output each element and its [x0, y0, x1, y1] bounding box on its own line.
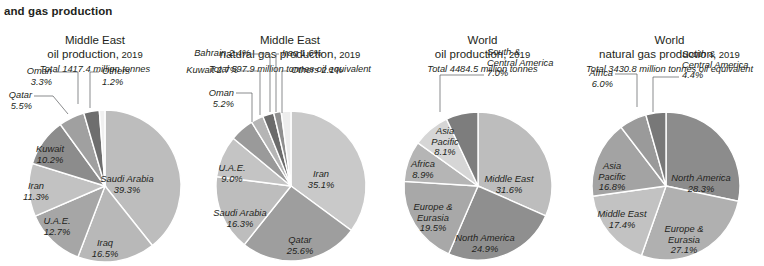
pie-slice-name: Africa [588, 68, 613, 78]
pie-slice-name: South & [682, 49, 715, 59]
pie-slice-label: Africa8.9% [410, 158, 435, 180]
pie-slice-name: Iran [313, 168, 329, 179]
pie-slice-label: South &Central America4.4% [682, 49, 748, 80]
pie-slice-label: Oman5.2% [209, 88, 234, 109]
pie-slice-label: Oman3.3% [27, 66, 52, 87]
label-leader-line [282, 71, 288, 113]
pie-slice-value: 27.1% [670, 244, 698, 255]
pie-chart-1: Saudi Arabia39.3%Iraq16.5%U.A.E.12.7%Ira… [0, 34, 190, 266]
pie-slice-value: 7.0% [487, 68, 508, 78]
pie-slice-name: Central America [682, 60, 748, 70]
pie-slice-name: Europe & [413, 201, 452, 212]
pie-slice-value: 4.4% [682, 70, 703, 80]
pie-chart-2: Iran35.1%Qatar25.6%Saudi Arabia16.3%U.A.… [190, 34, 390, 266]
pie-slice-name: Bahrain 2.4% [194, 48, 250, 58]
pie-slice-name: Qatar [288, 234, 312, 245]
pie-slice-value: 31.6% [496, 184, 523, 195]
pie-slice-name: U.A.E. [218, 162, 245, 173]
label-leader-line [653, 77, 679, 112]
pie-slice-value: 28.3% [687, 183, 715, 194]
pie-slice-name: Pacific [598, 171, 626, 182]
pie-slice-label: Others1.2% [102, 66, 130, 87]
pie-slice-label: Kuwait10.2% [36, 143, 65, 165]
label-leader-line [54, 72, 78, 104]
pie-chart-panel-3: Worldoil production, 2019Total 4484.5 mi… [390, 34, 575, 266]
pie-chart-4: North America28.3%Europe &Eurasia27.1%Mi… [575, 34, 764, 266]
pie-slice-name: Eurasia [417, 212, 449, 223]
pie-slice-value: 24.9% [471, 243, 499, 254]
pie-slice-value: 17.4% [609, 219, 636, 230]
pie-slice-name: Europe & [664, 223, 703, 234]
label-leader-line [236, 93, 252, 122]
pie-slice-name: Middle East [485, 173, 534, 184]
pie-slice-name: Asia [602, 160, 621, 171]
pie-slice-name: Iraq 1.6% [282, 48, 322, 58]
pie-slice-label: Kuwait 2.7% [186, 65, 238, 75]
pie-slice-name: Others 2.1% [291, 65, 343, 75]
pie-slice-label: Africa6.0% [588, 68, 613, 89]
label-leader-line [615, 74, 637, 107]
pie-chart-panel-4: Worldnatural gas production, 2019Total 3… [575, 34, 764, 266]
pie-slice-value: 6.0% [592, 79, 613, 89]
pie-slice-label: Qatar5.5% [9, 90, 33, 111]
pie-slice-value: 8.9% [412, 169, 433, 180]
pie-slice-value: 5.2% [213, 99, 234, 109]
pie-slice-value: 10.2% [37, 154, 64, 165]
page-title: and gas production [4, 5, 113, 17]
pie-slice-name: Saudi Arabia [100, 173, 153, 184]
pie-slice-name: Qatar [9, 90, 33, 100]
pie-slice-name: U.A.E. [43, 215, 70, 226]
pie-slice-value: 16.3% [227, 218, 254, 229]
pie-slice-value: 11.3% [23, 191, 49, 202]
pie-slice-value: 12.7% [44, 226, 71, 237]
pie-slice-name: Asia [435, 125, 454, 136]
pie-slice-name: Saudi Arabia [213, 207, 266, 218]
pie-slice-name: Kuwait 2.7% [186, 65, 238, 75]
pie-slice-label: Others 2.1% [291, 65, 343, 75]
pie-chart-panel-1: Middle Eastoil production, 2019Total 141… [0, 34, 190, 266]
pie-chart-panel-2: Middle Eastnatural gas production, 2019T… [190, 34, 390, 266]
pie-slice-label: U.A.E.9.0% [218, 162, 245, 184]
pie-slice-name: North America [455, 232, 515, 243]
pie-slice-label: Qatar25.6% [286, 234, 314, 256]
pie-slice-name: Oman [27, 66, 52, 76]
pie-slice-label: Bahrain 2.4% [194, 48, 250, 58]
pie-slice-label: South &Central America7.0% [487, 47, 553, 78]
label-leader-line [276, 54, 279, 112]
pie-slice-value: 16.8% [599, 181, 626, 192]
label-leader-line [252, 54, 270, 112]
pie-slice-name: Eurasia [668, 234, 700, 245]
pie-slice-value: 35.1% [308, 179, 335, 190]
pie-slice-name: Central America [487, 58, 553, 68]
pie-slice-value: 16.5% [92, 248, 119, 259]
pie-slice-name: Kuwait [36, 143, 65, 154]
label-leader-line [90, 72, 99, 108]
pie-slice-name: North America [671, 172, 731, 183]
pie-slice-name: South & [487, 47, 520, 57]
label-leader-line [34, 96, 68, 114]
charts-row: Middle Eastoil production, 2019Total 141… [0, 34, 764, 266]
pie-slice-name: Pacific [431, 136, 459, 147]
pie-slice-value: 39.3% [114, 184, 141, 195]
pie-slice-name: Africa [410, 158, 435, 169]
pie-slice-label: U.A.E.12.7% [43, 215, 70, 237]
pie-slice-value: 5.5% [11, 101, 32, 111]
pie-slice-label: Iraq 1.6% [282, 48, 322, 58]
pie-slice-value: 8.1% [434, 146, 455, 157]
pie-slice-value: 3.3% [31, 77, 52, 87]
pie-slice-name: Iraq [97, 237, 114, 248]
pie-slice-value: 9.0% [221, 173, 242, 184]
pie-slice-value: 1.2% [102, 77, 123, 87]
pie-slice-value: 19.5% [420, 222, 447, 233]
pie-slice-name: Others [102, 66, 130, 76]
pie-chart-3: Middle East31.6%North America24.9%Europe… [390, 34, 575, 266]
pie-slice-name: Middle East [598, 208, 647, 219]
pie-slice-value: 25.6% [286, 245, 314, 256]
label-leader-line [440, 75, 484, 112]
pie-slice-name: Oman [209, 88, 234, 98]
pie-slice-name: Iran [28, 180, 44, 191]
